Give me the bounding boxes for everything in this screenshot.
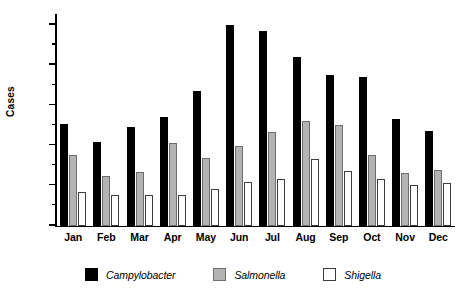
x-tick-label-jul: Jul [256, 231, 289, 243]
x-tick-label-apr: Apr [156, 231, 189, 243]
gray-square-swatch [213, 268, 226, 281]
y-minor-tick-450 [52, 43, 56, 44]
x-tick-label-mar: Mar [123, 231, 156, 243]
x-axis-tick-labels: JanFebMarAprMayJunJulAugSepOctNovDec [57, 231, 456, 243]
x-tick-label-oct: Oct [355, 231, 388, 243]
bar-nov-campylobacter[interactable] [392, 119, 400, 226]
bar-jan-salmonella[interactable] [69, 155, 77, 225]
bar-aug-shigella[interactable] [311, 159, 319, 225]
bar-aug-campylobacter[interactable] [293, 57, 301, 226]
bar-sep-salmonella[interactable] [335, 125, 343, 225]
y-minor-tick-350 [52, 84, 56, 85]
plot-area: 0100200300400500 [55, 14, 455, 227]
bar-feb-salmonella[interactable] [102, 176, 110, 225]
bar-oct-shigella[interactable] [377, 179, 385, 225]
bar-aug-salmonella[interactable] [302, 121, 310, 225]
bar-jun-salmonella[interactable] [235, 146, 243, 226]
bar-oct-salmonella[interactable] [368, 155, 376, 225]
bar-may-campylobacter[interactable] [193, 91, 201, 226]
white-square-swatch [323, 268, 336, 281]
y-tick-400 [49, 63, 55, 64]
x-tick-label-jan: Jan [57, 231, 90, 243]
legend-item-campylobacter[interactable]: Campylobacter [85, 268, 175, 281]
y-tick-200 [49, 144, 55, 145]
bar-group-aug [289, 15, 322, 226]
bar-chart: Cases 0100200300400500 JanFebMarAprMayJu… [0, 0, 466, 297]
bar-group-may [189, 15, 222, 226]
bar-group-jul [256, 15, 289, 226]
x-tick-label-dec: Dec [422, 231, 455, 243]
x-tick-label-sep: Sep [322, 231, 355, 243]
y-minor-tick-50 [52, 204, 56, 205]
bar-group-mar [123, 15, 156, 226]
chart-legend: CampylobacterSalmonellaShigella [0, 268, 466, 281]
bar-jan-shigella[interactable] [78, 192, 86, 226]
bar-jul-campylobacter[interactable] [259, 31, 267, 225]
bar-jun-shigella[interactable] [244, 182, 252, 225]
bar-group-feb [90, 15, 123, 226]
bar-jul-shigella[interactable] [277, 179, 285, 225]
bar-sep-shigella[interactable] [344, 171, 352, 225]
x-tick-label-nov: Nov [389, 231, 422, 243]
black-square-swatch [85, 268, 98, 281]
bar-dec-shigella[interactable] [443, 183, 451, 225]
x-tick-label-aug: Aug [289, 231, 322, 243]
bar-group-sep [322, 15, 355, 226]
y-tick-500 [49, 23, 55, 24]
legend-item-salmonella[interactable]: Salmonella [213, 268, 285, 281]
bar-group-dec [422, 15, 455, 226]
bar-may-salmonella[interactable] [202, 158, 210, 226]
bar-nov-shigella[interactable] [410, 185, 418, 225]
y-minor-tick-250 [52, 124, 56, 125]
bar-oct-campylobacter[interactable] [359, 77, 367, 226]
bar-group-oct [355, 15, 388, 226]
bar-mar-salmonella[interactable] [136, 172, 144, 226]
bar-may-shigella[interactable] [211, 189, 219, 225]
x-tick-label-may: May [189, 231, 222, 243]
y-axis-label: Cases [5, 70, 16, 134]
y-tick-100 [49, 184, 55, 185]
legend-item-shigella[interactable]: Shigella [323, 268, 381, 281]
bar-mar-shigella[interactable] [145, 195, 153, 225]
bar-apr-campylobacter[interactable] [160, 117, 168, 226]
bar-dec-salmonella[interactable] [434, 170, 442, 226]
bar-sep-campylobacter[interactable] [326, 75, 334, 226]
bar-nov-salmonella[interactable] [401, 173, 409, 225]
bar-feb-shigella[interactable] [111, 195, 119, 226]
legend-label-campylobacter: Campylobacter [106, 269, 175, 281]
bar-mar-campylobacter[interactable] [127, 127, 135, 226]
x-tick-label-feb: Feb [90, 231, 123, 243]
bar-group-jan [57, 15, 90, 226]
y-tick-300 [49, 104, 55, 105]
bar-groups [57, 15, 456, 226]
bar-feb-campylobacter[interactable] [93, 142, 101, 226]
x-tick-label-jun: Jun [223, 231, 256, 243]
bar-apr-shigella[interactable] [178, 195, 186, 225]
bar-group-apr [156, 15, 189, 226]
bar-group-jun [223, 15, 256, 226]
legend-label-shigella: Shigella [344, 269, 381, 281]
bar-jun-campylobacter[interactable] [226, 25, 234, 226]
legend-label-salmonella: Salmonella [234, 269, 285, 281]
bar-apr-salmonella[interactable] [169, 143, 177, 226]
y-minor-tick-150 [52, 164, 56, 165]
bar-group-nov [389, 15, 422, 226]
bar-jan-campylobacter[interactable] [60, 124, 68, 225]
y-tick-0 [49, 224, 55, 225]
bar-jul-salmonella[interactable] [268, 132, 276, 225]
x-axis-line [55, 226, 455, 228]
bar-dec-campylobacter[interactable] [425, 131, 433, 225]
